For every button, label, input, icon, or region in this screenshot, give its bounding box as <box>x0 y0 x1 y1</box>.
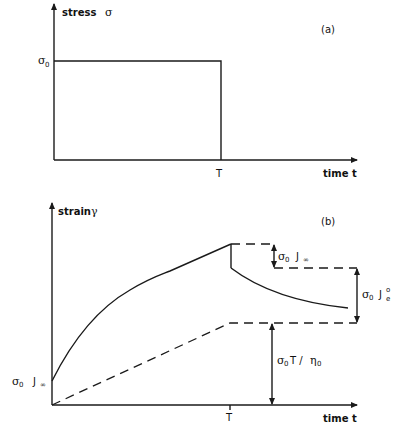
svg-text:T /: T / <box>289 355 303 366</box>
time-T-label-a: T <box>215 168 223 179</box>
svg-text:o: o <box>386 286 390 294</box>
creep-curve <box>52 244 231 381</box>
recoil-instant-label: σ 0 J ∞ <box>278 250 309 264</box>
strain-axis-label-symbol: γ <box>91 205 98 218</box>
svg-text:∞: ∞ <box>40 381 46 389</box>
svg-text:0: 0 <box>317 360 321 368</box>
svg-text:J: J <box>295 251 299 262</box>
time-axis-label-a: time t <box>323 168 357 179</box>
strain-axis-label-word: strain <box>58 206 91 217</box>
creep-recovery-diagram: stress σ (a) σ 0 T time t strain γ (b) <box>0 0 404 443</box>
stress-axis-label-word: stress <box>62 7 96 18</box>
panel-a-stress: stress σ (a) σ 0 T time t <box>38 4 357 179</box>
instant-strain-label: σ 0 J ∞ <box>12 375 46 389</box>
svg-text:0: 0 <box>19 381 23 389</box>
time-T-label-b: T <box>225 412 233 423</box>
panel-a-tag: (a) <box>321 24 335 35</box>
svg-text:η: η <box>310 354 317 367</box>
time-axis-label-b: time t <box>323 413 357 424</box>
stress-axis-label-symbol: σ <box>105 6 113 19</box>
panel-b-strain: strain γ (b) σ 0 J ∞ σ 0 J o e <box>12 203 390 424</box>
svg-text:e: e <box>386 295 390 303</box>
svg-text:0: 0 <box>285 256 289 264</box>
stress-step-curve <box>54 61 221 160</box>
svg-text:J: J <box>32 376 36 387</box>
svg-text:∞: ∞ <box>303 256 309 264</box>
panel-b-tag: (b) <box>321 216 335 227</box>
recoil-elastic-label: σ 0 J o e <box>362 286 390 303</box>
svg-text:0: 0 <box>284 360 288 368</box>
viscous-label: σ 0 T / η 0 <box>277 354 321 368</box>
recovery-curve <box>231 268 348 308</box>
svg-text:0: 0 <box>369 294 373 302</box>
svg-text:J: J <box>378 289 382 300</box>
sigma0-subscript: 0 <box>45 61 49 69</box>
